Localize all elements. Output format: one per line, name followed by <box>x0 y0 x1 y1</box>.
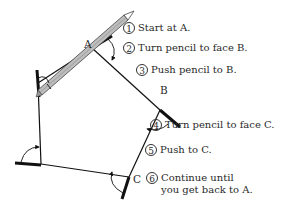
vertex-label-c: C <box>133 173 141 185</box>
step-4: 4 Turn pencil to face C. <box>150 119 275 131</box>
step-3: 3 Push pencil to B. <box>136 64 237 76</box>
heading-at-c <box>122 177 129 199</box>
vertex-label-a: A <box>84 38 92 50</box>
turn-arrow-d <box>21 147 39 162</box>
step-text: Turn pencil to face C. <box>165 119 275 131</box>
step-text: Turn pencil to face B. <box>138 42 248 54</box>
step-2: 2 Turn pencil to face B. <box>123 42 248 54</box>
step-text: Start at A. <box>138 22 190 34</box>
step-text: Push to C. <box>160 144 212 156</box>
edge-a-b <box>92 48 160 110</box>
step-number: 5 <box>145 144 157 156</box>
step-number: 3 <box>136 64 148 76</box>
step-1: 1 Start at A. <box>123 22 190 34</box>
step-number: 4 <box>150 119 162 131</box>
step-5: 5 Push to C. <box>145 144 212 156</box>
turn-arrow-a <box>108 39 114 60</box>
turn-arrows <box>21 39 168 193</box>
pencil-icon <box>36 11 134 97</box>
edge-c-d <box>41 164 129 177</box>
step-text: Push pencil to B. <box>151 64 237 76</box>
heading-at-d <box>15 163 41 165</box>
vertex-label-b: B <box>160 84 168 96</box>
pentagon-diagram: A B C 1 Start at A. 2 Turn pencil to fac… <box>0 0 289 217</box>
step-number: 2 <box>123 42 135 54</box>
step-text: Continue until you get back to A. <box>161 172 253 196</box>
step-number: 1 <box>123 22 135 34</box>
step-6: 6 Continue until you get back to A. <box>146 172 253 196</box>
step-number: 6 <box>146 172 158 184</box>
